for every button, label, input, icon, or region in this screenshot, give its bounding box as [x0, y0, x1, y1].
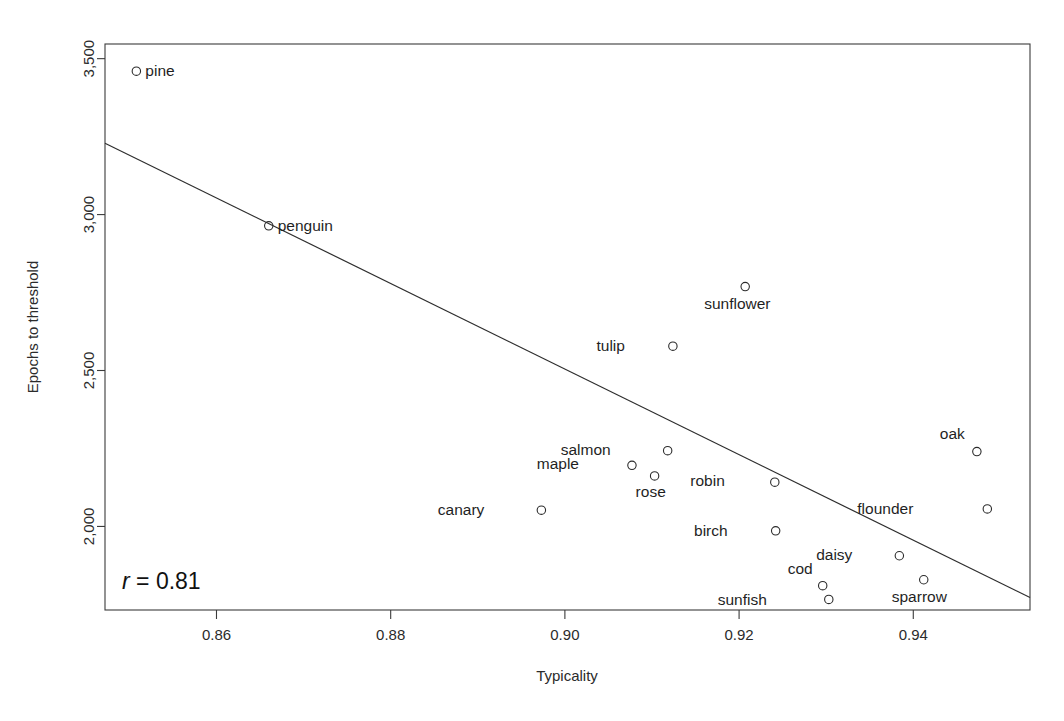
y-axis-title: Epochs to threshold — [24, 261, 41, 394]
point-label: sunfish — [718, 591, 767, 608]
data-point: daisy — [816, 546, 903, 563]
point-marker — [771, 478, 779, 486]
point-label: sparrow — [892, 588, 948, 605]
x-tick-label: 0.94 — [899, 626, 928, 643]
point-marker — [825, 595, 833, 603]
y-tick-label: 3,500 — [80, 40, 97, 78]
point-label: daisy — [816, 546, 852, 563]
data-point: rose — [636, 472, 666, 500]
regression-line — [105, 143, 1030, 597]
data-point: flounder — [857, 500, 991, 517]
point-label: penguin — [278, 217, 333, 234]
data-point: pine — [132, 62, 175, 79]
data-point: maple — [537, 455, 636, 472]
point-marker — [650, 472, 658, 480]
data-point: canary — [438, 501, 546, 518]
y-tick-label: 2,000 — [80, 508, 97, 546]
point-label: robin — [690, 472, 724, 489]
y-axis-ticks: 2,0002,5003,0003,500 — [80, 40, 105, 545]
point-marker — [132, 67, 140, 75]
chart-canvas: 2,0002,5003,0003,500 0.860.880.900.920.9… — [0, 0, 1064, 721]
point-marker — [628, 461, 636, 469]
scatter-plot: 2,0002,5003,0003,500 0.860.880.900.920.9… — [0, 0, 1064, 721]
point-label: canary — [438, 501, 485, 518]
x-axis-title: Typicality — [536, 667, 598, 684]
point-marker — [771, 527, 779, 535]
x-tick-label: 0.90 — [550, 626, 579, 643]
point-marker — [663, 446, 671, 454]
data-point: sunfish — [718, 591, 833, 608]
data-points: pinepenguinsunflowertulipoaksalmonmapler… — [132, 62, 991, 608]
point-marker — [983, 505, 991, 513]
point-label: cod — [788, 560, 813, 577]
data-point: birch — [694, 522, 780, 539]
point-marker — [819, 581, 827, 589]
point-marker — [895, 552, 903, 560]
point-label: maple — [537, 455, 579, 472]
point-label: sunflower — [704, 295, 770, 312]
point-marker — [669, 342, 677, 350]
point-label: rose — [636, 483, 666, 500]
x-tick-label: 0.86 — [202, 626, 231, 643]
point-marker — [265, 222, 273, 230]
data-point: sparrow — [892, 576, 948, 605]
point-marker — [920, 576, 928, 584]
x-axis-ticks: 0.860.880.900.920.94 — [202, 610, 928, 643]
point-label: tulip — [596, 337, 624, 354]
data-point: tulip — [596, 337, 677, 354]
y-tick-label: 3,000 — [80, 196, 97, 234]
point-marker — [741, 282, 749, 290]
point-label: pine — [145, 62, 174, 79]
x-tick-label: 0.92 — [724, 626, 753, 643]
point-label: birch — [694, 522, 728, 539]
correlation-annotation: r = 0.81 — [122, 568, 201, 594]
point-marker — [973, 447, 981, 455]
plot-frame — [105, 44, 1030, 610]
data-point: sunflower — [704, 282, 770, 311]
trend-line — [105, 143, 1030, 597]
point-label: flounder — [857, 500, 913, 517]
data-point: robin — [690, 472, 779, 489]
point-marker — [537, 506, 545, 514]
data-point: oak — [940, 425, 981, 456]
y-tick-label: 2,500 — [80, 352, 97, 390]
data-point: penguin — [265, 217, 333, 234]
data-point: cod — [788, 560, 827, 590]
x-tick-label: 0.88 — [376, 626, 405, 643]
point-label: oak — [940, 425, 965, 442]
